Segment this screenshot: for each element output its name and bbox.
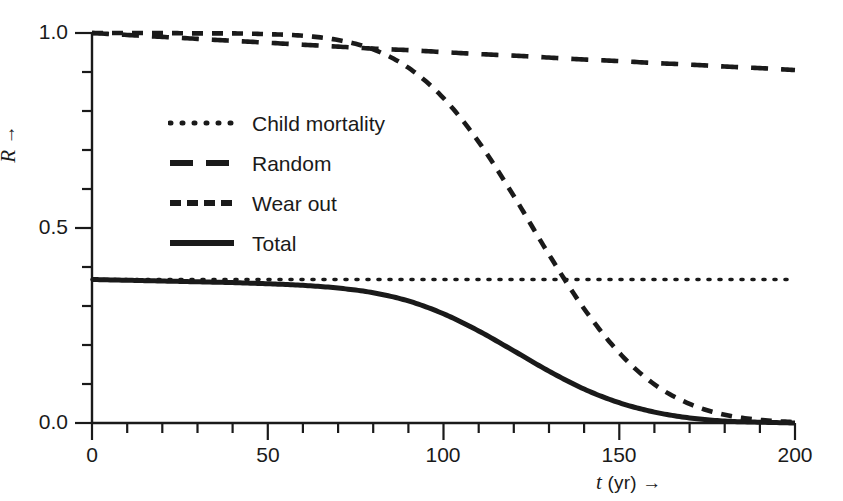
x-axis-ticks (92, 423, 795, 440)
legend-swatch-medium-dash (168, 196, 240, 210)
y-axis-label: R → (0, 84, 21, 204)
x-tick-label-0: 0 (57, 443, 127, 467)
y-tick-label-0.5: 0.5 (8, 215, 68, 239)
chart-legend: Child mortality Random Wear out (168, 103, 385, 263)
chart-figure: 1.0 0.5 0.0 0 50 100 150 200 R → t (yr) … (0, 0, 843, 501)
x-tick-label-150: 150 (584, 443, 654, 467)
legend-item-child-mortality: Child mortality (168, 103, 385, 143)
y-axis-label-arrow: → (0, 125, 19, 144)
y-tick-label-0: 0.0 (8, 410, 68, 434)
legend-swatch-dotted (168, 116, 240, 130)
x-axis-label-unit: (yr) (608, 472, 637, 493)
legend-label-random: Random (252, 153, 331, 174)
legend-label-wear-out: Wear out (252, 193, 337, 214)
legend-swatch-long-dash (168, 156, 240, 170)
legend-label-total: Total (252, 233, 296, 254)
chart-plot-area (0, 0, 843, 501)
legend-item-random: Random (168, 143, 385, 183)
x-tick-label-100: 100 (408, 443, 478, 467)
x-axis-label-arrow: → (642, 472, 661, 493)
y-axis-ticks (75, 33, 92, 423)
legend-item-total: Total (168, 223, 385, 263)
legend-item-wear-out: Wear out (168, 183, 385, 223)
y-tick-label-1: 1.0 (8, 20, 68, 44)
x-tick-label-200: 200 (760, 443, 830, 467)
x-tick-label-50: 50 (233, 443, 303, 467)
x-axis-label: t (yr) → (596, 470, 662, 495)
y-axis-label-variable: R (0, 150, 20, 163)
legend-swatch-solid (168, 236, 240, 250)
legend-label-child-mortality: Child mortality (252, 113, 385, 134)
series-random (92, 33, 795, 70)
